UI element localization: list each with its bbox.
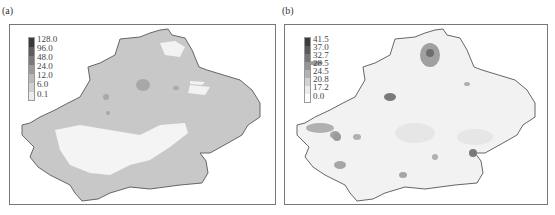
high-value-patch [353,134,361,140]
legend-value: 0.1 [37,90,48,99]
high-value-patch [457,129,493,145]
legend-colorbar [304,37,311,103]
high-value-patch [399,172,407,178]
high-value-patch [395,123,435,143]
high-value-patch [136,79,150,91]
high-value-patch [469,149,477,157]
high-value-patch [173,86,179,90]
high-value-patch [103,94,109,100]
map-panel-b: 41.5 37.0 32.7 28.5 24.5 20.8 17.2 0.0 [284,24,548,205]
high-value-patch [306,123,334,133]
region-outline [22,29,260,201]
map-panel-a: 128.0 96.0 48.0 24.0 12.0 6.0 0.1 [9,24,276,205]
high-value-patch [464,82,470,86]
legend-value: 0.0 [313,92,324,101]
high-value-patch [334,161,346,169]
legend-value: 6.0 [37,80,48,89]
high-value-patch [432,154,438,160]
high-value-patch [426,49,434,57]
panel-a-label: (a) [2,5,13,16]
region-outline [297,29,535,201]
high-value-patch [384,93,396,101]
legend-colorbar [28,37,35,101]
high-value-patch [106,111,110,115]
high-value-patch [333,133,341,141]
panel-b-label: (b) [282,5,294,16]
